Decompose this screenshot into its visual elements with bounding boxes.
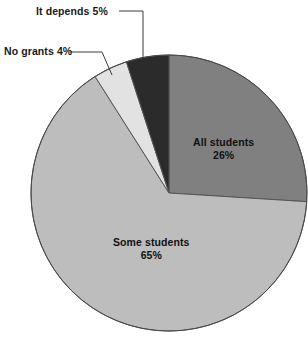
- pie-label-some-students: Some students 65%: [113, 236, 190, 262]
- pie-label-all-students-name: All students: [193, 136, 254, 148]
- pie-label-all-students-percent: 26%: [193, 149, 254, 162]
- pie-slice-all-students[interactable]: [169, 55, 307, 202]
- leader-line-it-depends: [119, 11, 143, 58]
- pie-label-no-grants: No grants 4%: [4, 45, 72, 57]
- pie-chart-figure: It depends 5% No grants 4% All students …: [0, 0, 308, 340]
- pie-label-some-students-name: Some students: [113, 236, 190, 248]
- pie-label-it-depends: It depends 5%: [36, 5, 108, 17]
- pie-label-some-students-percent: 65%: [113, 249, 190, 262]
- pie-label-all-students: All students 26%: [193, 136, 254, 162]
